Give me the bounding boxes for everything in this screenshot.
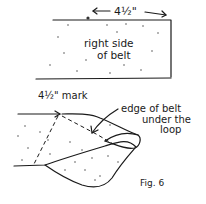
- measurement-label: 4½": [114, 5, 137, 18]
- hidden-edge-dashed-lines: [34, 116, 113, 164]
- edge-pointer-arrow: [91, 109, 118, 133]
- fabric-texture-dots-bottom: [17, 124, 118, 180]
- measurement-start-dot: [86, 16, 89, 19]
- edge-label-line1: edge of belt: [121, 103, 181, 114]
- edge-label-line3: loop: [160, 124, 181, 135]
- mark-label: 4½" mark: [38, 90, 88, 101]
- belt-label-line1: right side: [84, 37, 134, 49]
- belt-label-line2: of belt: [97, 49, 131, 61]
- figure-caption: Fig. 6: [140, 178, 164, 188]
- folded-belt-outline: [14, 111, 140, 187]
- belt-diagram: 4½" right side of belt 4½" mark edge of …: [0, 0, 206, 204]
